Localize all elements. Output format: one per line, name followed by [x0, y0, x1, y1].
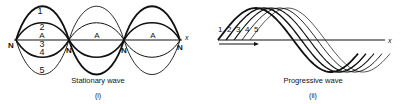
wave-diagram: 1 2 A 3 4 5 A A N N N N x Stationary wav…	[0, 0, 401, 104]
progressive-curve-label-2: 2	[227, 25, 232, 34]
stationary-sub-caption: (i)	[95, 92, 101, 100]
stationary-axis-label: x	[184, 34, 189, 41]
stationary-curve-label-4: 4	[39, 47, 44, 57]
stationary-curve-label-5: 5	[39, 65, 44, 75]
stationary-curve-4-loop-2	[69, 40, 124, 57]
stationary-antinode-label-3: A	[150, 31, 156, 40]
stationary-antinode-label-2: A	[94, 31, 100, 40]
stationary-caption: Stationary wave	[71, 76, 124, 85]
progressive-sub-caption: (ii)	[309, 92, 317, 100]
propagation-arrowhead	[254, 42, 259, 46]
stationary-node-label-2: N	[66, 46, 72, 55]
progressive-curve-label-4: 4	[245, 25, 250, 34]
progressive-curve-label-3: 3	[236, 25, 241, 34]
progressive-curve-label-1: 1	[218, 25, 223, 34]
stationary-curve-label-1: 1	[37, 6, 42, 16]
stationary-node-label-1: N	[8, 41, 14, 50]
progressive-curve-label-5: 5	[254, 25, 259, 34]
progressive-axis-label: x	[387, 37, 392, 44]
stationary-node-label-4: N	[177, 43, 183, 52]
stationary-curve-4-loop-3	[124, 40, 180, 57]
stationary-node-label-3: N	[121, 46, 127, 55]
progressive-wave-figure	[218, 8, 390, 72]
progressive-caption: Progressive wave	[283, 76, 342, 85]
